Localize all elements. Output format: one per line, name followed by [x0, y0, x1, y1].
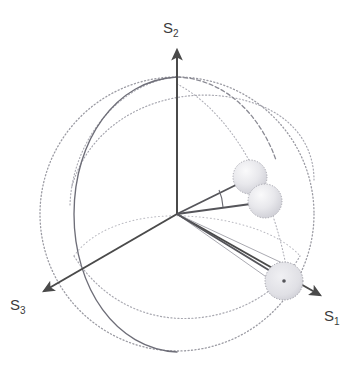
axis-label-s2: S2 [163, 19, 179, 39]
great-circle-dotted-upper [72, 95, 314, 186]
meridian-front-solid [74, 77, 177, 352]
axis-label-s3: S3 [10, 296, 26, 316]
marker-middle [248, 184, 282, 218]
axis-s3-line [44, 214, 177, 291]
marker-lower-right-center-dot [282, 279, 286, 283]
equator-dotted-back [74, 216, 300, 256]
meridian-back-dotted [70, 77, 177, 205]
marker-middle-body [248, 184, 282, 218]
axis-label-s1: S1 [324, 307, 340, 327]
meridian-back-right-dotted [177, 77, 276, 160]
poincare-sphere-figure: S2 S3 S1 [0, 0, 359, 380]
poincare-sphere-canvas: S2 S3 S1 [0, 0, 359, 380]
cone-edge-upper-line [177, 214, 293, 268]
marker-lower-right [265, 262, 303, 300]
